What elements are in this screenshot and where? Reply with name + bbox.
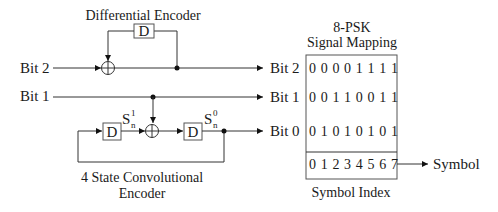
svg-text:1: 1 [131,108,136,118]
mapping-bits-bit1: 0 0 1 1 0 0 1 1 [309,90,399,105]
diff-feedback-in [108,31,134,61]
signal-mapping: 8-PSK Signal Mapping Bit 2 Bit 1 Bit 0 0… [270,20,480,200]
mapping-title-line1: 8-PSK [333,20,370,35]
conv-junction-dot [222,129,227,134]
input-bit2-label: Bit 2 [20,60,50,76]
svg-text:n: n [131,120,136,130]
8psk-encoder-diagram: Differential Encoder Bit 2 D Bit 1 D [0,0,498,212]
mapping-row-label-bit1: Bit 1 [270,89,300,105]
conv-encoder-title-line2: Encoder [119,186,166,201]
svg-text:S: S [122,111,130,127]
conv-encoder-title-line1: 4 State Convolutional [81,170,203,185]
mapping-bits-bit0: 0 1 0 1 0 1 0 1 [309,124,399,139]
svg-text:S: S [204,111,212,127]
bit1-path: Bit 1 [20,88,263,123]
mapping-bits-bit2: 0 0 0 0 1 1 1 1 [309,61,399,76]
differential-encoder: Differential Encoder Bit 2 D [20,8,263,76]
conv-delay2-label: D [188,124,199,140]
symbol-output-label: Symbol [433,156,480,172]
svg-text:n: n [213,120,218,130]
mapping-row-label-bit2: Bit 2 [270,60,300,76]
symbol-index-row: 0 1 2 3 4 5 6 7 [309,157,399,172]
state-s1-label: S 1 n [122,108,136,130]
input-bit1-label: Bit 1 [20,88,50,104]
diff-junction-dot [175,66,180,71]
symbol-index-caption: Symbol Index [312,185,391,200]
mapping-row-label-bit0: Bit 0 [270,123,300,139]
xor-convolutional-icon [146,125,159,138]
convolutional-encoder: D S 1 n D S 0 n 4 State Convolutional En… [78,108,263,201]
differential-encoder-title: Differential Encoder [85,8,201,23]
diff-feedback-out [154,31,177,68]
xor-differential-icon [102,62,115,75]
svg-text:0: 0 [213,108,218,118]
mapping-title-line2: Signal Mapping [307,35,397,50]
state-s0-label: S 0 n [204,108,218,130]
conv-delay1-label: D [107,124,118,140]
diff-delay-label: D [139,23,150,39]
